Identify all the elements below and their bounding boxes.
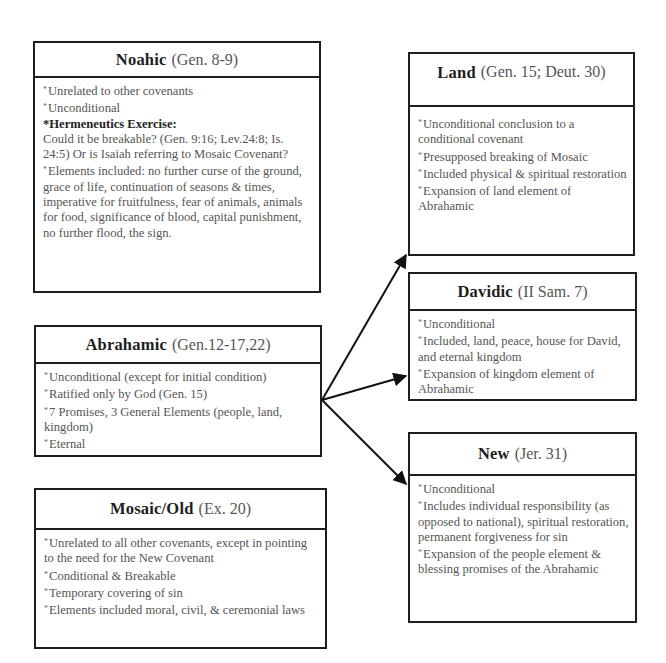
arrow-abrahamic-to-land	[322, 255, 406, 400]
arrow-abrahamic-to-new	[322, 400, 406, 484]
connector-arrows	[0, 0, 666, 663]
